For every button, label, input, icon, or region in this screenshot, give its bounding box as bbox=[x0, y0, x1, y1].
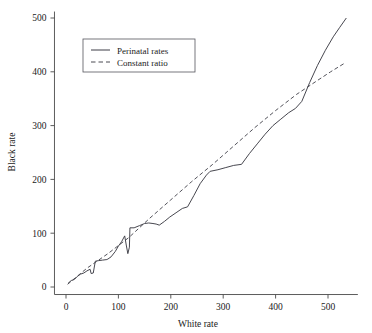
chart-figure: 0100200300400500 0100200300400500 White … bbox=[0, 0, 372, 333]
perinatal-vs-white-rate-line-chart: 0100200300400500 0100200300400500 White … bbox=[0, 0, 372, 333]
x-axis-tick-labels: 0100200300400500 bbox=[64, 302, 336, 312]
legend-label-perinatal-rates: Perinatal rates bbox=[117, 46, 169, 56]
chart-legend: Perinatal rates Constant ratio bbox=[83, 39, 195, 72]
y-tick-label: 500 bbox=[32, 13, 47, 23]
y-tick-label: 300 bbox=[32, 121, 47, 131]
x-axis-tickmarks bbox=[66, 295, 328, 299]
y-axis-tickmarks bbox=[50, 18, 54, 287]
x-axis-title: White rate bbox=[178, 319, 218, 329]
y-tick-label: 0 bbox=[42, 282, 47, 292]
y-tick-label: 200 bbox=[32, 175, 47, 185]
x-tick-label: 500 bbox=[321, 302, 336, 312]
y-axis-tick-labels: 0100200300400500 bbox=[32, 13, 47, 292]
series-constant-ratio bbox=[68, 64, 344, 285]
y-axis-title: Black rate bbox=[7, 133, 17, 172]
x-tick-label: 100 bbox=[111, 302, 126, 312]
x-tick-label: 200 bbox=[164, 302, 179, 312]
x-tick-label: 400 bbox=[268, 302, 283, 312]
y-tick-label: 400 bbox=[32, 67, 47, 77]
x-tick-label: 0 bbox=[64, 302, 69, 312]
y-tick-label: 100 bbox=[32, 229, 47, 239]
legend-label-constant-ratio: Constant ratio bbox=[117, 58, 168, 68]
x-tick-label: 300 bbox=[216, 302, 231, 312]
